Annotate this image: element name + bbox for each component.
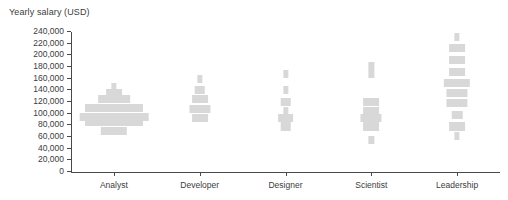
y-tick-label: 160,000 xyxy=(33,73,64,83)
x-tick-label: Scientist xyxy=(355,180,387,190)
distribution-bar xyxy=(85,118,143,126)
plot-area xyxy=(71,32,500,172)
distribution-bar xyxy=(85,104,143,112)
distribution-bar xyxy=(194,86,205,94)
y-tick-label: 140,000 xyxy=(33,84,64,94)
distribution-bar xyxy=(447,89,468,97)
x-tick-mark xyxy=(114,172,115,176)
distribution-bar xyxy=(449,44,465,52)
distribution-bar xyxy=(363,122,379,130)
distribution-bar xyxy=(192,95,208,103)
x-tick-label: Designer xyxy=(268,180,302,190)
distribution-bar xyxy=(280,122,291,130)
y-tick-label: 200,000 xyxy=(33,49,64,59)
distribution-bar xyxy=(98,95,130,103)
distribution-bar xyxy=(280,98,291,106)
distribution-bar xyxy=(369,70,374,78)
distribution-bar xyxy=(454,33,459,41)
distribution-bar xyxy=(283,70,288,78)
y-tick-label: 20,000 xyxy=(38,154,64,164)
distribution-bar xyxy=(449,122,465,130)
x-tick-mark xyxy=(371,172,372,176)
salary-distribution-chart: Yearly salary (USD) 240,000220,000200,00… xyxy=(0,0,508,200)
x-tick-mark xyxy=(200,172,201,176)
distribution-bar xyxy=(454,132,459,140)
distribution-bar xyxy=(192,114,208,122)
chart-title: Yearly salary (USD) xyxy=(9,7,90,17)
y-tick-label: 60,000 xyxy=(38,131,64,141)
x-tick-label: Analyst xyxy=(100,180,128,190)
y-tick-label: 120,000 xyxy=(33,96,64,106)
x-tick-mark xyxy=(286,172,287,176)
y-tick-label: 0 xyxy=(59,166,64,176)
distribution-bar xyxy=(283,86,288,94)
y-tick-label: 220,000 xyxy=(33,38,64,48)
distribution-bar xyxy=(449,68,465,76)
distribution-bar xyxy=(369,62,374,70)
distribution-bar xyxy=(197,75,202,83)
x-tick-label: Leadership xyxy=(436,180,478,190)
distribution-bar xyxy=(363,98,379,106)
y-tick-label: 100,000 xyxy=(33,108,64,118)
x-tick-mark xyxy=(457,172,458,176)
distribution-bar xyxy=(369,136,374,144)
distribution-bar xyxy=(189,105,210,113)
y-tick-label: 240,000 xyxy=(33,26,64,36)
distribution-bar xyxy=(361,114,382,122)
y-tick-label: 80,000 xyxy=(38,119,64,129)
distribution-bar xyxy=(101,127,127,135)
distribution-bar xyxy=(449,56,465,64)
y-tick-label: 40,000 xyxy=(38,143,64,153)
x-tick-label: Developer xyxy=(180,180,219,190)
y-tick-label: 180,000 xyxy=(33,61,64,71)
distribution-bar xyxy=(444,79,470,87)
distribution-bar xyxy=(447,99,468,107)
distribution-bar xyxy=(278,114,294,122)
distribution-bar xyxy=(452,111,463,119)
